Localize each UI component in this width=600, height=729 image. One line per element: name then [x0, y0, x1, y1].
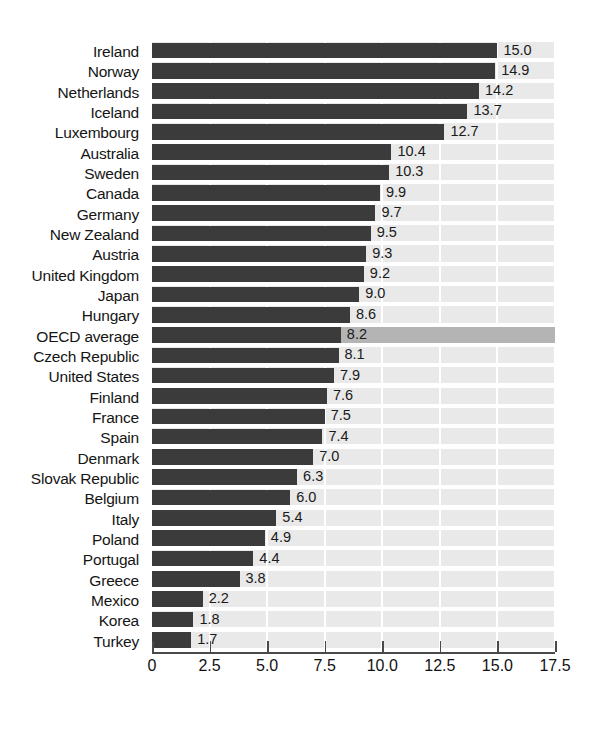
- bar-row: 8.1: [152, 347, 555, 367]
- bar-rows: 15.014.914.213.712.710.410.39.99.79.59.3…: [152, 42, 555, 652]
- bar-value-label: 14.9: [501, 62, 529, 79]
- bar-value-label: 9.0: [365, 285, 385, 302]
- bar-row: 1.7: [152, 632, 555, 652]
- bar-value-label: 1.8: [199, 611, 219, 628]
- bar: [152, 530, 265, 546]
- bar: [152, 185, 380, 201]
- bar: [152, 632, 191, 648]
- bar-row: 2.2: [152, 591, 555, 611]
- category-label: Turkey: [0, 632, 146, 652]
- bar: [152, 63, 495, 79]
- bar-value-label: 6.3: [303, 468, 323, 485]
- bar-row: 6.3: [152, 469, 555, 489]
- bar-value-label: 9.3: [372, 245, 392, 262]
- category-label: Czech Republic: [0, 347, 146, 367]
- bar-value-label: 3.8: [246, 570, 266, 587]
- category-label: New Zealand: [0, 225, 146, 245]
- bar: [152, 510, 276, 526]
- bar-value-label: 8.2: [347, 326, 367, 343]
- category-label: Sweden: [0, 164, 146, 184]
- bar-value-label: 4.4: [259, 550, 279, 567]
- x-axis-tick-label: 5.0: [256, 657, 278, 675]
- bar: [152, 124, 444, 140]
- x-axis-tick-label: 15.0: [482, 657, 513, 675]
- category-label: Japan: [0, 286, 146, 306]
- bar: [152, 571, 240, 587]
- x-axis-tick-label: 7.5: [314, 657, 336, 675]
- bar-value-label: 8.1: [345, 346, 365, 363]
- bar: [152, 83, 479, 99]
- bar-row: 3.8: [152, 571, 555, 591]
- bar-row: 15.0: [152, 42, 555, 62]
- bar: [152, 307, 350, 323]
- category-label: Italy: [0, 510, 146, 530]
- category-label: Hungary: [0, 306, 146, 326]
- bar-value-label: 12.7: [450, 123, 478, 140]
- bar-row: 8.2: [152, 327, 555, 347]
- bar-value-label: 1.7: [197, 631, 217, 648]
- bar-row: 4.4: [152, 550, 555, 570]
- bar: [152, 551, 253, 567]
- bar-chart: IrelandNorwayNetherlandsIcelandLuxembour…: [0, 0, 600, 729]
- bar: [152, 226, 371, 242]
- x-axis-tick: [325, 641, 327, 652]
- bar-value-label: 13.7: [473, 102, 501, 119]
- bar: [152, 104, 467, 120]
- bar: [152, 388, 327, 404]
- bar-row: 4.9: [152, 530, 555, 550]
- bar-row: 10.4: [152, 144, 555, 164]
- bar-row: 9.9: [152, 184, 555, 204]
- bar-row: 14.9: [152, 62, 555, 82]
- bar: [152, 287, 359, 303]
- bar-value-label: 7.4: [328, 428, 348, 445]
- category-label: Portugal: [0, 550, 146, 570]
- x-axis-line: [152, 652, 555, 654]
- x-axis-tick-label: 0: [148, 657, 157, 675]
- bar: [152, 348, 339, 364]
- category-label: Canada: [0, 184, 146, 204]
- bar-value-label: 2.2: [209, 590, 229, 607]
- bar: [152, 43, 497, 59]
- category-label: Slovak Republic: [0, 469, 146, 489]
- x-axis-tick-label: 10.0: [367, 657, 398, 675]
- category-label: France: [0, 408, 146, 428]
- x-axis-tick-label: 12.5: [424, 657, 455, 675]
- bar: [152, 449, 313, 465]
- bar-row: 5.4: [152, 510, 555, 530]
- bar-value-label: 9.5: [377, 224, 397, 241]
- category-label: Austria: [0, 245, 146, 265]
- bar-row: 6.0: [152, 489, 555, 509]
- bar-row: 1.8: [152, 611, 555, 631]
- bar-value-label: 10.3: [395, 163, 423, 180]
- category-label: Belgium: [0, 489, 146, 509]
- bar: [152, 327, 341, 343]
- category-label: Germany: [0, 205, 146, 225]
- bar-row: 12.7: [152, 123, 555, 143]
- bar-value-label: 5.4: [282, 509, 302, 526]
- bar-row: 7.9: [152, 367, 555, 387]
- category-label: Iceland: [0, 103, 146, 123]
- bar: [152, 266, 364, 282]
- bar-row: 10.3: [152, 164, 555, 184]
- bar-row: 7.4: [152, 428, 555, 448]
- category-label: Ireland: [0, 42, 146, 62]
- bar: [152, 409, 325, 425]
- x-axis-tick: [152, 641, 154, 652]
- category-label: Denmark: [0, 449, 146, 469]
- x-axis-tick: [210, 641, 212, 652]
- bar: [152, 612, 193, 628]
- category-label: United Kingdom: [0, 266, 146, 286]
- bar-value-label: 7.0: [319, 448, 339, 465]
- category-label-column: IrelandNorwayNetherlandsIcelandLuxembour…: [0, 42, 146, 652]
- bar: [152, 205, 375, 221]
- bar-value-label: 15.0: [503, 42, 531, 59]
- bar-row: 8.6: [152, 306, 555, 326]
- bar: [152, 490, 290, 506]
- bar: [152, 469, 297, 485]
- category-label: Korea: [0, 611, 146, 631]
- bar-row: 7.5: [152, 408, 555, 428]
- category-label: Australia: [0, 144, 146, 164]
- bar-value-label: 9.2: [370, 265, 390, 282]
- x-axis-tick: [382, 641, 384, 652]
- bar: [152, 368, 334, 384]
